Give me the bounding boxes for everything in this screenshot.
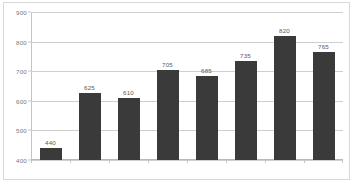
- bar[interactable]: [274, 36, 296, 160]
- bar-value-label: 820: [279, 27, 290, 34]
- bar-value-label: 705: [162, 61, 173, 68]
- bar-value-label: 685: [201, 67, 212, 74]
- bar[interactable]: [40, 148, 62, 160]
- x-axis-tick-mark: [148, 160, 149, 163]
- bar[interactable]: [118, 98, 140, 160]
- bar-slot: 765: [304, 12, 343, 160]
- y-axis-tick-label: 600: [16, 97, 27, 104]
- x-axis-tick-mark: [187, 160, 188, 163]
- bar-slot: 735: [226, 12, 265, 160]
- bar-value-label: 610: [123, 89, 134, 96]
- bar-slot: 440: [31, 12, 70, 160]
- bar-value-label: 625: [84, 84, 95, 91]
- y-axis-tick-label: 800: [16, 38, 27, 45]
- bar-slot: 820: [265, 12, 304, 160]
- y-axis-tick-label: 400: [16, 157, 27, 164]
- bar-slot: 625: [70, 12, 109, 160]
- x-axis-tick-mark: [226, 160, 227, 163]
- bar[interactable]: [313, 52, 335, 160]
- bar[interactable]: [157, 70, 179, 160]
- bar-value-label: 440: [45, 139, 56, 146]
- x-axis-tick-mark: [109, 160, 110, 163]
- bar-slot: 610: [109, 12, 148, 160]
- bar-value-label: 765: [318, 43, 329, 50]
- bar[interactable]: [196, 76, 218, 160]
- bar-value-label: 735: [240, 52, 251, 59]
- x-axis-tick-mark: [342, 160, 343, 163]
- y-axis-tick-label: 500: [16, 127, 27, 134]
- x-axis-tick-mark: [70, 160, 71, 163]
- bar-chart: 400500600700800900 440625610705685735820…: [0, 0, 353, 186]
- x-axis-tick-mark: [304, 160, 305, 163]
- y-axis-tick-label: 700: [16, 68, 27, 75]
- x-axis-tick-mark: [31, 160, 32, 163]
- bar-slot: 705: [148, 12, 187, 160]
- x-axis-tick-mark: [265, 160, 266, 163]
- bar-slot: 685: [187, 12, 226, 160]
- bar[interactable]: [235, 61, 257, 160]
- y-axis-tick-label: 900: [16, 9, 27, 16]
- bar[interactable]: [79, 93, 101, 160]
- plot-area: 400500600700800900 440625610705685735820…: [31, 12, 343, 160]
